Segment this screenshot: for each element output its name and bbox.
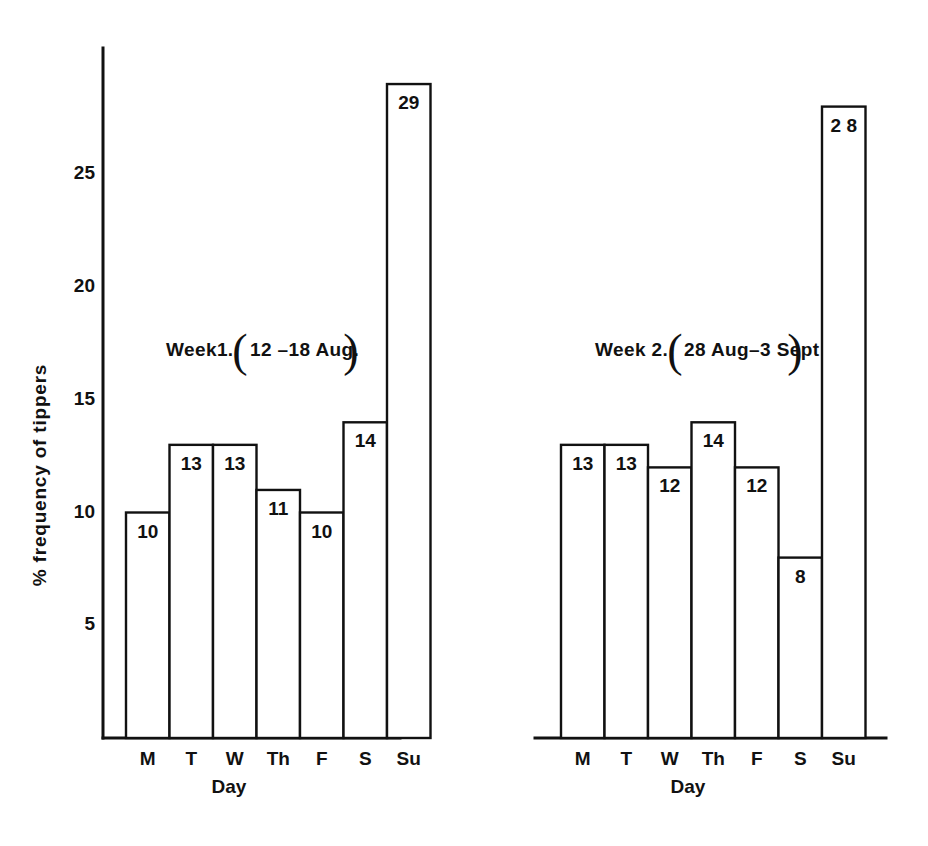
category-label-S: S	[794, 748, 807, 769]
y-axis-label-group: % frequency of tippers	[29, 364, 50, 586]
bar-week-2-T	[605, 445, 649, 738]
bar-value-label: 10	[137, 521, 158, 542]
y-tick-label: 5	[84, 613, 95, 634]
panel-title-prefix-week-1: Week1.	[166, 339, 234, 360]
bar-value-label: 13	[224, 453, 245, 474]
category-labels-week-1: MTWThFSSu	[140, 748, 421, 769]
bar-value-label: 13	[616, 453, 637, 474]
bar-week-1-F	[300, 513, 344, 739]
category-label-T: T	[185, 748, 197, 769]
panel-title-close-paren-week-1: )	[343, 325, 358, 376]
bars-week-1	[126, 84, 431, 738]
category-label-F: F	[751, 748, 763, 769]
category-label-S: S	[359, 748, 372, 769]
panel-week-1: 10131311101429 MTWThFSSu Week1. ( 12 –18…	[103, 84, 431, 797]
category-labels-week-2: MTWThFSSu	[575, 748, 856, 769]
bar-week-2-F	[735, 467, 779, 738]
category-label-Th: Th	[702, 748, 725, 769]
category-label-M: M	[140, 748, 156, 769]
panel-title-week-2: Week 2. ( 28 Aug–3 Sept )	[595, 325, 820, 376]
panel-title-prefix-week-2: Week 2.	[595, 339, 668, 360]
y-tick-label-group: 510152025	[74, 162, 96, 634]
bar-week-1-W	[213, 445, 257, 738]
panel-title-week-1: Week1. ( 12 –18 Aug. )	[166, 325, 359, 376]
x-axis-title-week-1: Day	[212, 776, 247, 797]
panel-title-open-paren-week-1: (	[232, 325, 247, 376]
bar-week-2-Th	[692, 422, 736, 738]
bar-week-1-S	[344, 422, 388, 738]
figure-root: % frequency of tippers 510152025 1013131…	[0, 0, 928, 846]
category-label-Th: Th	[267, 748, 290, 769]
y-tick-label: 20	[74, 275, 95, 296]
category-label-W: W	[661, 748, 679, 769]
category-label-Su: Su	[397, 748, 421, 769]
bar-value-label: 8	[795, 566, 806, 587]
bar-value-label: 2 8	[831, 115, 857, 136]
panel-title-close-paren-week-2: )	[787, 325, 802, 376]
bar-week-2-W	[648, 467, 692, 738]
x-axis-title-week-2: Day	[671, 776, 706, 797]
bar-value-label: 12	[746, 475, 767, 496]
category-label-T: T	[620, 748, 632, 769]
bar-value-label: 10	[311, 521, 332, 542]
bar-value-label: 13	[572, 453, 593, 474]
bar-value-label: 29	[398, 92, 419, 113]
bar-value-label: 14	[703, 430, 725, 451]
category-label-W: W	[226, 748, 244, 769]
bar-week-1-T	[170, 445, 214, 738]
y-tick-label: 25	[74, 162, 96, 183]
y-axis-label: % frequency of tippers	[29, 364, 50, 586]
bar-week-1-M	[126, 513, 170, 739]
bar-value-label: 11	[268, 498, 289, 519]
bar-chart-figure: % frequency of tippers 510152025 1013131…	[0, 0, 928, 846]
panel-title-open-paren-week-2: (	[667, 325, 682, 376]
bar-value-label: 13	[181, 453, 202, 474]
bar-week-1-Th	[257, 490, 301, 738]
y-tick-label: 10	[74, 501, 95, 522]
panel-week-2: 131312141282 8 MTWThFSSu Week 2. ( 28 Au…	[535, 107, 886, 797]
bars-week-2	[561, 107, 866, 738]
category-label-F: F	[316, 748, 328, 769]
y-tick-label: 15	[74, 388, 96, 409]
bar-week-2-M	[561, 445, 605, 738]
bar-week-1-Su	[387, 84, 431, 738]
bar-week-2-Su	[822, 107, 866, 738]
bar-value-label: 12	[659, 475, 680, 496]
category-label-Su: Su	[832, 748, 856, 769]
category-label-M: M	[575, 748, 591, 769]
bar-value-label: 14	[355, 430, 377, 451]
